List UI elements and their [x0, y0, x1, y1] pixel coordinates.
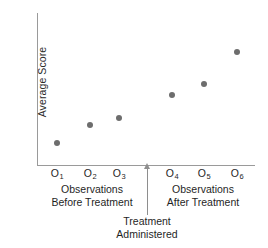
x-tick-label-o1: O1 [51, 167, 63, 179]
x-tick-label-o4: O4 [166, 167, 178, 179]
x-tick-label-o2: O2 [84, 167, 96, 179]
after-caption-line1: Observations [148, 183, 258, 196]
x-tick-base-o3: O [113, 167, 121, 179]
data-point-o1 [54, 140, 60, 146]
scatter-chart-figure: Average Score O1 O2 O3 O4 O5 O6 Observat… [0, 0, 268, 248]
x-tick-label-o5: O5 [198, 167, 210, 179]
data-point-o6 [234, 49, 240, 55]
data-point-o2 [87, 122, 93, 128]
x-tick-base-o5: O [198, 167, 206, 179]
x-tick-sub-o6: 6 [240, 172, 244, 181]
before-caption-line1: Observations [37, 183, 147, 196]
after-treatment-caption: Observations After Treatment [148, 183, 258, 208]
x-tick-sub-o3: 3 [122, 172, 126, 181]
treatment-caption-line2: Administered [92, 228, 202, 241]
x-tick-label-o3: O3 [113, 167, 125, 179]
treatment-arrow-up-icon [144, 163, 150, 169]
treatment-administered-caption: Treatment Administered [92, 215, 202, 240]
x-tick-base-o4: O [166, 167, 174, 179]
x-tick-sub-o4: 4 [175, 172, 179, 181]
after-caption-line2: After Treatment [148, 196, 258, 209]
before-treatment-caption: Observations Before Treatment [37, 183, 147, 208]
data-point-o3 [116, 115, 122, 121]
x-tick-base-o2: O [84, 167, 92, 179]
x-tick-base-o1: O [51, 167, 59, 179]
treatment-caption-line1: Treatment [92, 215, 202, 228]
before-caption-line2: Before Treatment [37, 196, 147, 209]
data-point-o4 [169, 92, 175, 98]
y-axis-label: Average Score [36, 2, 48, 162]
x-tick-sub-o5: 5 [207, 172, 211, 181]
x-tick-sub-o1: 1 [60, 172, 64, 181]
x-tick-label-o6: O6 [231, 167, 243, 179]
x-tick-base-o6: O [231, 167, 239, 179]
data-point-o5 [201, 81, 207, 87]
x-tick-sub-o2: 2 [93, 172, 97, 181]
